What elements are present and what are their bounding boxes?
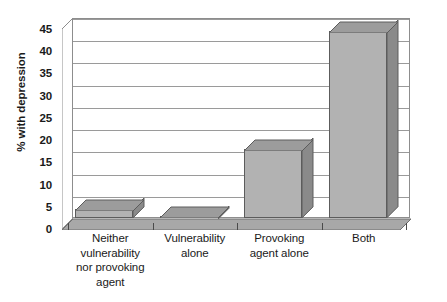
y-axis-tick-labels: 051015202530354045 — [22, 18, 52, 218]
bar-top-face-3 — [329, 19, 399, 31]
x-label-line: agent alone — [237, 246, 322, 261]
y-tick-label-35: 35 — [22, 67, 52, 79]
x-label-line: Provoking — [237, 231, 322, 246]
x-tick-mark-3 — [322, 223, 323, 230]
x-label-line: nor provoking — [68, 260, 153, 275]
y-tick-label-15: 15 — [22, 156, 52, 168]
x-label-line: agent — [68, 275, 153, 290]
bar-0 — [75, 197, 133, 218]
y-tick-label-30: 30 — [22, 90, 52, 102]
x-label-2: Provokingagent alone — [237, 231, 322, 260]
y-tick-label-0: 0 — [22, 223, 52, 235]
y-tick-label-25: 25 — [22, 112, 52, 124]
y-tick-label-40: 40 — [22, 45, 52, 57]
x-tick-mark-0 — [68, 223, 69, 230]
bar-side-face-3 — [387, 20, 399, 218]
bar-2 — [244, 137, 302, 218]
x-tick-mark-end — [406, 223, 407, 230]
y-tick-label-10: 10 — [22, 179, 52, 191]
x-label-line: Vulnerability — [153, 231, 238, 246]
bar-1 — [160, 204, 218, 218]
bar-3 — [329, 19, 387, 218]
plot-area — [62, 18, 422, 228]
y-tick-label-5: 5 — [22, 201, 52, 213]
x-label-line: Neither — [68, 231, 153, 246]
x-label-line: vulnerability — [68, 246, 153, 261]
x-axis-category-labels: Neithervulnerabilitynor provokingagentVu… — [62, 231, 428, 301]
bar-top-face-1 — [160, 204, 230, 216]
x-label-line: alone — [153, 246, 238, 261]
bar-chart: % with depression 051015202530354045 Nei… — [0, 0, 447, 302]
bar-front-face-2 — [244, 149, 302, 218]
y-tick-label-45: 45 — [22, 23, 52, 35]
x-tick-mark-2 — [237, 223, 238, 230]
bar-top-face-2 — [244, 137, 314, 149]
y-tick-label-20: 20 — [22, 134, 52, 146]
x-tick-mark-1 — [153, 223, 154, 230]
x-label-1: Vulnerabilityalone — [153, 231, 238, 260]
bars-layer — [62, 18, 422, 230]
bar-top-face-0 — [75, 197, 145, 209]
x-label-line: Both — [322, 231, 407, 246]
bar-front-face-3 — [329, 31, 387, 218]
x-label-3: Both — [322, 231, 407, 246]
x-label-0: Neithervulnerabilitynor provokingagent — [68, 231, 153, 289]
